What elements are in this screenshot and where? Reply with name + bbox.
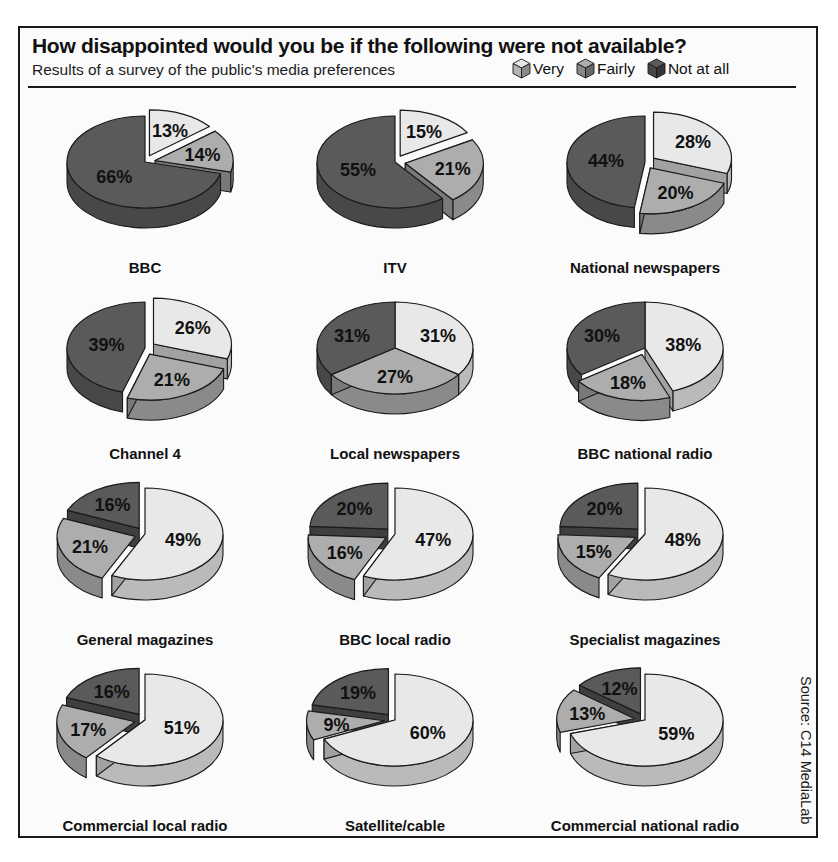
page-title: How disappointed would you be if the fol… (32, 34, 687, 58)
pie-slice-value: 28% (675, 132, 711, 152)
pie-chart: 48%15%20% (530, 464, 760, 626)
pie-chart-label: National newspapers (520, 259, 770, 276)
pie-chart: 47%16%20% (280, 464, 510, 626)
pie-chart-label: Specialist magazines (520, 631, 770, 648)
pie-chart-cell-channel-4: 26%21%39%Channel 4 (20, 278, 270, 464)
cube-icon (647, 58, 666, 79)
pie-slice-value: 21% (72, 537, 108, 557)
pie-chart-cell-itv: 15%21%55%ITV (270, 92, 520, 278)
pie-slice-value: 15% (406, 122, 442, 142)
pie-slice-value: 47% (415, 530, 451, 550)
chart-legend: VeryFairlyNot at all (512, 58, 729, 79)
legend-item-fairly: Fairly (576, 58, 635, 79)
pie-chart-row: 26%21%39%Channel 431%27%31%Local newspap… (20, 278, 816, 464)
pie-chart-label: BBC national radio (520, 445, 770, 462)
pie-chart: 59%13%12% (530, 650, 760, 812)
pie-slice-value: 15% (576, 542, 612, 562)
pie-chart-cell-bbc: 13%14%66%BBC (20, 92, 270, 278)
source-note: Source: C14 MediaLab (798, 676, 814, 824)
pie-chart: 38%18%30% (530, 278, 760, 440)
pie-slice-value: 60% (410, 723, 446, 743)
pie-chart-cell-national-newspapers: 28%20%44%National newspapers (520, 92, 770, 278)
pie-chart-cell-satellite-cable: 60%9%19%Satellite/cable (270, 650, 520, 836)
pie-slice-value: 17% (70, 720, 106, 740)
pie-chart-cell-bbc-local-radio: 47%16%20%BBC local radio (270, 464, 520, 650)
pie-slice-value: 55% (340, 160, 376, 180)
pie-chart: 15%21%55% (280, 92, 510, 254)
pie-slice-value: 12% (601, 679, 637, 699)
pie-slice-value: 51% (164, 718, 200, 738)
pie-chart-cell-general-magazines: 49%21%16%General magazines (20, 464, 270, 650)
pie-chart-row: 13%14%66%BBC15%21%55%ITV28%20%44%Nationa… (20, 90, 816, 278)
pie-slice-value: 26% (175, 318, 211, 338)
pie-chart-label: BBC (20, 259, 270, 276)
pie-slice-value: 13% (152, 121, 188, 141)
pie-chart-row: 51%17%16%Commercial local radio60%9%19%S… (20, 650, 816, 836)
pie-chart-label: Local newspapers (270, 445, 520, 462)
pie-chart-label: ITV (270, 259, 520, 276)
pie-slice-value: 14% (184, 145, 220, 165)
pie-slice-value: 20% (587, 499, 623, 519)
pie-slice-value: 16% (94, 682, 130, 702)
pie-chart-cell-specialist-magazines: 48%15%20%Specialist magazines (520, 464, 770, 650)
pie-chart: 28%20%44% (530, 92, 760, 254)
pie-slice-value: 48% (665, 530, 701, 550)
pie-chart: 51%17%16% (30, 650, 260, 812)
legend-item-label: Very (533, 60, 564, 78)
pie-chart-label: Commercial national radio (520, 817, 770, 834)
legend-item-very: Very (512, 58, 564, 79)
pie-slice-value: 30% (584, 326, 620, 346)
header-divider (28, 86, 796, 88)
pie-slice-value: 21% (435, 159, 471, 179)
pie-slice-value: 31% (334, 326, 370, 346)
pie-slice-value: 49% (165, 530, 201, 550)
pie-slice-value: 19% (340, 683, 376, 703)
pie-slice-value: 21% (154, 370, 190, 390)
pie-slice-value: 13% (569, 704, 605, 724)
pie-slice-value: 20% (658, 183, 694, 203)
cube-icon (576, 58, 595, 79)
pie-slice-value: 27% (377, 367, 413, 387)
pie-chart-label: BBC local radio (270, 631, 520, 648)
pie-chart-label: Satellite/cable (270, 817, 520, 834)
pie-chart-label: Commercial local radio (20, 817, 270, 834)
pie-slice-value: 31% (420, 326, 456, 346)
pie-slice-value: 16% (95, 495, 131, 515)
cube-icon (512, 58, 531, 79)
pie-chart: 13%14%66% (30, 92, 260, 254)
pie-chart-label: General magazines (20, 631, 270, 648)
pie-chart: 49%21%16% (30, 464, 260, 626)
pie-slice-value: 44% (588, 151, 624, 171)
chart-frame: How disappointed would you be if the fol… (18, 26, 818, 838)
pie-chart-row: 49%21%16%General magazines47%16%20%BBC l… (20, 464, 816, 650)
pie-slice-value: 18% (610, 373, 646, 393)
legend-item-not-at-all: Not at all (647, 58, 729, 79)
page-subtitle: Results of a survey of the public's medi… (32, 61, 395, 79)
pie-slice-value: 20% (337, 499, 373, 519)
pie-slice-value: 39% (88, 335, 124, 355)
pie-chart: 31%27%31% (280, 278, 510, 440)
pie-chart-cell-bbc-national-radio: 38%18%30%BBC national radio (520, 278, 770, 464)
pie-slice-value: 66% (96, 167, 132, 187)
pie-chart-label: Channel 4 (20, 445, 270, 462)
pie-chart-grid: 13%14%66%BBC15%21%55%ITV28%20%44%Nationa… (20, 90, 816, 836)
pie-slice-value: 16% (327, 543, 363, 563)
pie-chart-cell-commercial-national-radio: 59%13%12%Commercial national radio (520, 650, 770, 836)
pie-chart-cell-commercial-local-radio: 51%17%16%Commercial local radio (20, 650, 270, 836)
legend-item-label: Fairly (597, 60, 635, 78)
pie-chart: 60%9%19% (280, 650, 510, 812)
pie-slice-value: 9% (324, 715, 350, 735)
pie-chart: 26%21%39% (30, 278, 260, 440)
pie-chart-cell-local-newspapers: 31%27%31%Local newspapers (270, 278, 520, 464)
legend-item-label: Not at all (668, 60, 729, 78)
pie-slice-value: 38% (665, 335, 701, 355)
pie-slice-value: 59% (658, 724, 694, 744)
